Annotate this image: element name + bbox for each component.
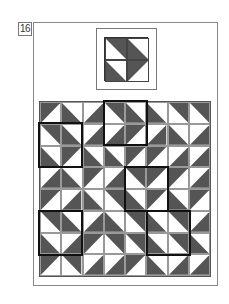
grid-cell — [83, 211, 104, 233]
grid-cell — [146, 189, 167, 211]
half-square-triangle-icon — [41, 103, 60, 123]
half-square-triangle-icon — [105, 147, 124, 167]
grid-cell — [189, 167, 210, 189]
half-square-triangle-icon — [105, 212, 124, 232]
half-square-triangle-icon — [126, 147, 145, 167]
half-square-triangle-icon — [106, 61, 126, 81]
half-square-triangle-icon — [169, 212, 188, 232]
grid-cell — [40, 189, 61, 211]
half-square-triangle-icon — [41, 147, 60, 167]
half-square-triangle-icon — [62, 125, 81, 145]
half-square-triangle-icon — [106, 39, 126, 59]
grid-cell — [40, 167, 61, 189]
half-square-triangle-icon — [126, 168, 145, 188]
grid-cell — [40, 233, 61, 255]
grid-cell — [168, 124, 189, 146]
grid-cell — [168, 254, 189, 276]
half-square-triangle-icon — [169, 190, 188, 210]
grid-cell — [83, 124, 104, 146]
half-square-triangle-icon — [128, 61, 148, 81]
grid-cell — [125, 254, 146, 276]
half-square-triangle-icon — [105, 234, 124, 254]
half-square-triangle-icon — [41, 234, 60, 254]
puzzle-number-label: 16 — [18, 22, 32, 36]
grid-cell — [125, 189, 146, 211]
grid-cell — [104, 124, 125, 146]
key-cell — [105, 60, 127, 82]
grid-cell — [168, 167, 189, 189]
half-square-triangle-icon — [147, 147, 166, 167]
grid-cell — [61, 189, 82, 211]
half-square-triangle-icon — [190, 125, 209, 145]
half-square-triangle-icon — [190, 255, 209, 275]
puzzle-grid — [39, 101, 211, 277]
half-square-triangle-icon — [84, 212, 103, 232]
half-square-triangle-icon — [84, 125, 103, 145]
half-square-triangle-icon — [147, 168, 166, 188]
half-square-triangle-icon — [105, 168, 124, 188]
half-square-triangle-icon — [147, 255, 166, 275]
grid-cell — [40, 211, 61, 233]
half-square-triangle-icon — [169, 168, 188, 188]
half-square-triangle-icon — [169, 234, 188, 254]
grid-cell — [168, 189, 189, 211]
grid-cell — [146, 146, 167, 168]
half-square-triangle-icon — [62, 234, 81, 254]
grid-cell — [104, 146, 125, 168]
grid-cell — [146, 254, 167, 276]
half-square-triangle-icon — [126, 103, 145, 123]
grid-cell — [125, 124, 146, 146]
grid-cell — [189, 211, 210, 233]
half-square-triangle-icon — [190, 147, 209, 167]
half-square-triangle-icon — [41, 212, 60, 232]
half-square-triangle-icon — [41, 255, 60, 275]
half-square-triangle-icon — [147, 212, 166, 232]
grid-cell — [61, 233, 82, 255]
grid-cell — [189, 102, 210, 124]
key-cell — [127, 60, 149, 82]
half-square-triangle-icon — [41, 190, 60, 210]
grid-cell — [189, 146, 210, 168]
half-square-triangle-icon — [105, 125, 124, 145]
half-square-triangle-icon — [147, 190, 166, 210]
half-square-triangle-icon — [62, 168, 81, 188]
half-square-triangle-icon — [62, 103, 81, 123]
grid-cell — [61, 254, 82, 276]
grid-cell — [104, 211, 125, 233]
half-square-triangle-icon — [105, 255, 124, 275]
grid-cell — [104, 167, 125, 189]
grid-cell — [104, 233, 125, 255]
grid-cell — [40, 124, 61, 146]
grid-cell — [189, 233, 210, 255]
grid-cell — [61, 211, 82, 233]
half-square-triangle-icon — [190, 234, 209, 254]
half-square-triangle-icon — [126, 125, 145, 145]
grid-cell — [146, 102, 167, 124]
half-square-triangle-icon — [84, 255, 103, 275]
half-square-triangle-icon — [169, 255, 188, 275]
grid-cell — [83, 189, 104, 211]
half-square-triangle-icon — [190, 103, 209, 123]
half-square-triangle-icon — [147, 103, 166, 123]
grid-cell — [61, 146, 82, 168]
half-square-triangle-icon — [84, 234, 103, 254]
grid-cell — [40, 102, 61, 124]
half-square-triangle-icon — [126, 255, 145, 275]
grid-cell — [104, 254, 125, 276]
grid-cell — [40, 146, 61, 168]
grid-cell — [125, 211, 146, 233]
half-square-triangle-icon — [62, 212, 81, 232]
grid-cell — [168, 102, 189, 124]
half-square-triangle-icon — [62, 190, 81, 210]
key-pattern-grid — [104, 37, 148, 81]
grid-cell — [83, 102, 104, 124]
half-square-triangle-icon — [84, 190, 103, 210]
grid-cell — [61, 124, 82, 146]
grid-cell — [61, 102, 82, 124]
grid-cell — [168, 146, 189, 168]
grid-cell — [189, 189, 210, 211]
half-square-triangle-icon — [126, 234, 145, 254]
half-square-triangle-icon — [190, 212, 209, 232]
half-square-triangle-icon — [126, 212, 145, 232]
grid-cell — [83, 146, 104, 168]
